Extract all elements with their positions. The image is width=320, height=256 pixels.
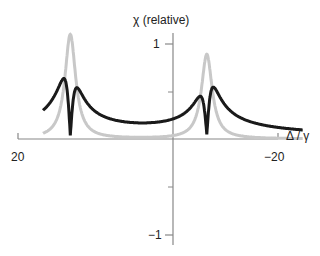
x-tick-label-left: 20 (11, 150, 24, 164)
y-tick-label-bottom: −1 (148, 228, 162, 242)
chart-canvas (0, 0, 320, 256)
y-tick-label-top: 1 (153, 37, 160, 51)
x-tick-label-right: −20 (264, 150, 284, 164)
x-axis-label: Δ / γ (286, 129, 309, 143)
y-axis-label: χ (relative) (133, 13, 189, 27)
